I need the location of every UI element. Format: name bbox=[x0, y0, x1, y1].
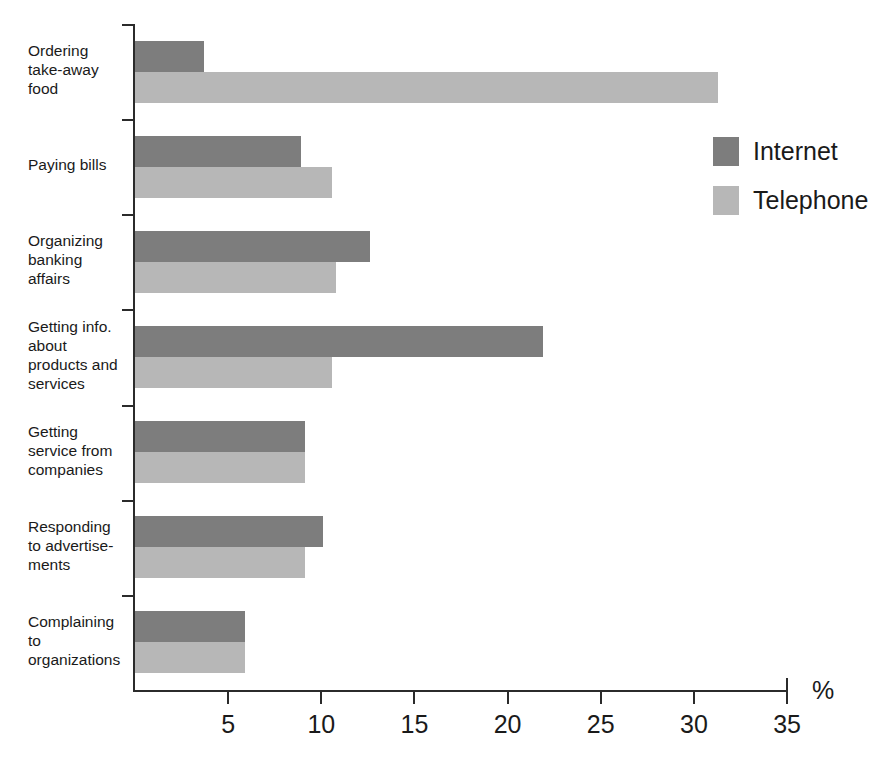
category-label-line: Paying bills bbox=[28, 155, 128, 174]
category-label-line: banking bbox=[28, 250, 128, 269]
category-label-line: Getting bbox=[28, 422, 128, 441]
category-label-line: service from bbox=[28, 441, 128, 460]
category-label-line: products and bbox=[28, 355, 128, 374]
category-label: Getting info.aboutproducts andservices bbox=[28, 317, 128, 393]
category-label-line: organizations bbox=[28, 650, 128, 669]
x-axis-tick-label: 10 bbox=[307, 710, 335, 739]
bar-telephone bbox=[135, 167, 332, 198]
category-label: Complainingtoorganizations bbox=[28, 612, 128, 669]
category-label: Paying bills bbox=[28, 155, 128, 174]
x-axis-tick-label: 35 bbox=[773, 710, 801, 739]
x-axis-tick bbox=[507, 692, 509, 704]
category-label-line: Ordering bbox=[28, 41, 128, 60]
category-label-line: Getting info. bbox=[28, 317, 128, 336]
x-axis-end-tick bbox=[786, 678, 788, 692]
category-label: Organizingbankingaffairs bbox=[28, 231, 128, 288]
legend: Internet Telephone bbox=[713, 137, 882, 235]
bar-telephone bbox=[135, 547, 305, 578]
legend-item-internet: Internet bbox=[713, 137, 882, 166]
bar-telephone bbox=[135, 642, 245, 673]
y-axis-tick bbox=[122, 309, 134, 311]
bar-internet bbox=[135, 611, 245, 642]
x-axis-tick bbox=[786, 692, 788, 704]
category-label-line: food bbox=[28, 79, 128, 98]
category-label-line: to bbox=[28, 631, 128, 650]
y-axis-tick bbox=[122, 214, 134, 216]
category-label-line: affairs bbox=[28, 269, 128, 288]
x-axis-tick bbox=[413, 692, 415, 704]
x-axis-tick bbox=[227, 692, 229, 704]
bar-internet bbox=[135, 516, 323, 547]
y-axis-tick bbox=[122, 24, 134, 26]
legend-label-telephone: Telephone bbox=[753, 186, 868, 215]
y-axis-tick bbox=[122, 119, 134, 121]
bar-internet bbox=[135, 231, 370, 262]
x-axis-tick bbox=[600, 692, 602, 704]
x-axis-tick-label: 15 bbox=[401, 710, 429, 739]
x-axis-tick-label: 30 bbox=[680, 710, 708, 739]
category-label: Respondingto advertise-ments bbox=[28, 517, 128, 574]
legend-swatch-telephone bbox=[713, 186, 739, 215]
bar-telephone bbox=[135, 262, 336, 293]
legend-label-internet: Internet bbox=[753, 137, 838, 166]
category-label-line: to advertise- bbox=[28, 536, 128, 555]
x-axis-unit-label: % bbox=[812, 676, 834, 705]
category-label: Orderingtake-awayfood bbox=[28, 41, 128, 98]
x-axis-tick bbox=[693, 692, 695, 704]
category-label-line: ments bbox=[28, 555, 128, 574]
category-label-line: Organizing bbox=[28, 231, 128, 250]
x-axis-tick-label: 20 bbox=[494, 710, 522, 739]
x-axis-line bbox=[133, 690, 788, 692]
category-label-line: Responding bbox=[28, 517, 128, 536]
y-axis-tick bbox=[122, 500, 134, 502]
category-label: Gettingservice fromcompanies bbox=[28, 422, 128, 479]
category-label-line: Complaining bbox=[28, 612, 128, 631]
bar-telephone bbox=[135, 72, 718, 103]
bar-internet bbox=[135, 326, 543, 357]
bar-telephone bbox=[135, 357, 332, 388]
category-label-line: take-away bbox=[28, 60, 128, 79]
x-axis-tick-label: 25 bbox=[587, 710, 615, 739]
y-axis-tick bbox=[122, 405, 134, 407]
legend-item-telephone: Telephone bbox=[713, 186, 882, 215]
bar-internet bbox=[135, 41, 204, 72]
category-label-line: about bbox=[28, 336, 128, 355]
bar-internet bbox=[135, 136, 301, 167]
y-axis-tick bbox=[122, 595, 134, 597]
bar-telephone bbox=[135, 452, 305, 483]
category-label-line: services bbox=[28, 374, 128, 393]
x-axis-tick bbox=[320, 692, 322, 704]
plot-area: 5101520253035 Orderingtake-awayfoodPayin… bbox=[0, 0, 882, 773]
category-label-line: companies bbox=[28, 460, 128, 479]
bar-internet bbox=[135, 421, 305, 452]
bar-chart: 5101520253035 Orderingtake-awayfoodPayin… bbox=[0, 0, 882, 773]
x-axis-tick-label: 5 bbox=[221, 710, 235, 739]
legend-swatch-internet bbox=[713, 137, 739, 166]
